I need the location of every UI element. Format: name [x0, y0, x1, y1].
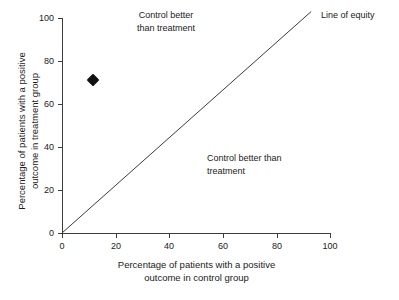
x-axis-title: Percentage of patients with a positive o… [62, 258, 331, 284]
annotation-control-better-lower: Control better than treatment [207, 152, 327, 177]
y-axis-tick [58, 104, 62, 105]
y-axis-tick-label: 0 [49, 228, 54, 238]
x-axis-tick-label: 80 [272, 241, 282, 251]
y-axis-tick [58, 147, 62, 148]
y-axis-tick-label: 60 [44, 99, 54, 109]
y-axis-tick [58, 18, 62, 19]
y-axis-tick-label: 100 [39, 13, 54, 23]
x-axis-line [62, 233, 331, 234]
annotation-control-better-upper: Control better than treatment [112, 9, 220, 34]
x-axis-tick [169, 234, 170, 238]
data-point-marker[interactable] [86, 74, 99, 87]
x-axis-tick-label: 40 [164, 241, 174, 251]
x-axis-tick [223, 234, 224, 238]
x-axis-tick [62, 234, 63, 238]
scatter-chart-figure: 0 20 40 60 80 100 0 20 40 60 80 100 Cont… [0, 0, 399, 300]
y-axis-tick-label: 80 [44, 56, 54, 66]
x-axis-tick-label: 0 [59, 241, 64, 251]
x-axis-tick-label: 20 [111, 241, 121, 251]
y-axis-tick-label: 20 [44, 185, 54, 195]
y-axis-tick-label: 40 [44, 142, 54, 152]
y-axis-tick [58, 61, 62, 62]
x-axis-tick [116, 234, 117, 238]
y-axis-line [62, 18, 63, 234]
line-of-equity [0, 0, 399, 300]
x-axis-tick-label: 100 [322, 241, 337, 251]
y-axis-tick [58, 233, 62, 234]
x-axis-tick [330, 234, 331, 238]
x-axis-tick-label: 60 [218, 241, 228, 251]
y-axis-tick [58, 190, 62, 191]
y-axis-title: Percentage of patients with a positive o… [15, 15, 41, 247]
annotation-line-of-equity: Line of equity [321, 9, 375, 22]
x-axis-tick [277, 234, 278, 238]
